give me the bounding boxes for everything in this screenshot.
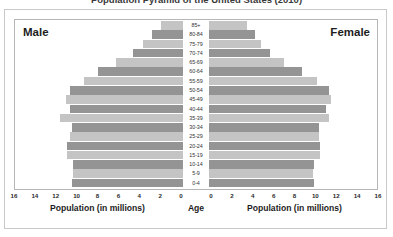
axis-tick-label: 0 [173,192,189,199]
axis-tick-label: 4 [131,192,147,199]
axis-tick-label: 10 [69,192,85,199]
pyramid-row: 60-64 [15,67,377,76]
pyramid-row: 0-4 [15,179,377,188]
male-bar [70,105,183,114]
age-group-label: 20-24 [183,142,209,151]
pyramid-row: 65-69 [15,58,377,67]
age-group-label: 5-9 [183,169,209,178]
right-axis-caption: Population (in millions) [211,203,378,213]
age-group-label: 10-14 [183,160,209,169]
age-group-label: 55-59 [183,77,209,86]
male-bar [73,169,183,178]
pyramid-row: 50-54 [15,86,377,95]
pyramid-row: 40-44 [15,105,377,114]
female-bar [209,114,329,123]
age-axis-caption: Age [181,203,211,213]
male-bar [73,160,183,169]
age-group-label: 25-29 [183,132,209,141]
age-group-label: 85+ [183,21,209,30]
axis-tick-label: 2 [224,192,240,199]
female-bar [209,95,331,104]
male-bar [72,123,183,132]
male-bar [70,132,183,141]
age-group-label: 0-4 [183,179,209,188]
male-bar [152,30,183,39]
female-bar [209,179,314,188]
age-group-label: 60-64 [183,67,209,76]
pyramid-row: 45-49 [15,95,377,104]
axis-tick-label: 14 [27,192,43,199]
male-bar [67,142,183,151]
male-bar [60,114,183,123]
axis-tick-label: 16 [6,192,22,199]
female-bar [209,67,302,76]
female-bar [209,49,270,58]
left-axis-ticks: 1614121086420 [14,192,181,202]
chart-title-strip: Population Pyramid of the United States … [0,0,393,7]
axis-tick-label: 12 [328,192,344,199]
female-bar [209,40,261,49]
male-bar [161,21,183,30]
female-bar [209,142,320,151]
male-bar [98,67,183,76]
age-group-label: 50-54 [183,86,209,95]
age-group-label: 70-74 [183,49,209,58]
age-group-label: 80-84 [183,30,209,39]
age-group-label: 30-34 [183,123,209,132]
pyramid-row: 5-9 [15,169,377,178]
axis-tick-label: 6 [110,192,126,199]
axis-tick-label: 12 [48,192,64,199]
female-bar [209,30,255,39]
axis-tick-label: 6 [266,192,282,199]
chart-title: Population Pyramid of the United States … [0,0,393,5]
female-bar [209,58,284,67]
pyramid-row: 75-79 [15,40,377,49]
female-bar [209,86,329,95]
male-bar [67,151,183,160]
age-group-label: 75-79 [183,40,209,49]
age-group-label: 15-19 [183,151,209,160]
male-series-label: Male [23,26,49,38]
pyramid-row: 85+ [15,21,377,30]
male-bar [143,40,183,49]
male-bar [116,58,183,67]
female-bar [209,77,317,86]
axis-tick-label: 8 [287,192,303,199]
pyramid-row: 80-84 [15,30,377,39]
female-series-label: Female [330,26,370,38]
pyramid-row: 20-24 [15,142,377,151]
female-bar [209,169,313,178]
female-bar [209,151,320,160]
female-bar [209,132,319,141]
axis-tick-label: 14 [349,192,365,199]
male-bar [70,86,183,95]
female-bar [209,123,319,132]
axis-tick-label: 2 [152,192,168,199]
male-bar [133,49,183,58]
axis-tick-label: 4 [245,192,261,199]
male-bar [72,179,183,188]
axis-tick-label: 16 [370,192,386,199]
age-group-label: 40-44 [183,105,209,114]
female-bar [209,160,314,169]
left-axis-caption: Population (in millions) [14,203,181,213]
female-bar [209,105,326,114]
bar-rows-container: 85+80-8475-7970-7465-6960-6455-5950-5445… [15,21,377,188]
axis-tick-label: 8 [90,192,106,199]
axis-tick-label: 10 [307,192,323,199]
male-bar [84,77,183,86]
population-pyramid-figure: Population Pyramid of the United States … [0,0,393,237]
pyramid-row: 35-39 [15,114,377,123]
age-group-label: 65-69 [183,58,209,67]
right-axis-ticks: 0246810121416 [211,192,378,202]
pyramid-row: 30-34 [15,123,377,132]
pyramid-row: 70-74 [15,49,377,58]
pyramid-row: 10-14 [15,160,377,169]
female-bar [209,21,247,30]
age-group-label: 45-49 [183,95,209,104]
pyramid-row: 25-29 [15,132,377,141]
pyramid-row: 15-19 [15,151,377,160]
axis-tick-label: 0 [203,192,219,199]
age-group-label: 35-39 [183,114,209,123]
male-bar [66,95,183,104]
